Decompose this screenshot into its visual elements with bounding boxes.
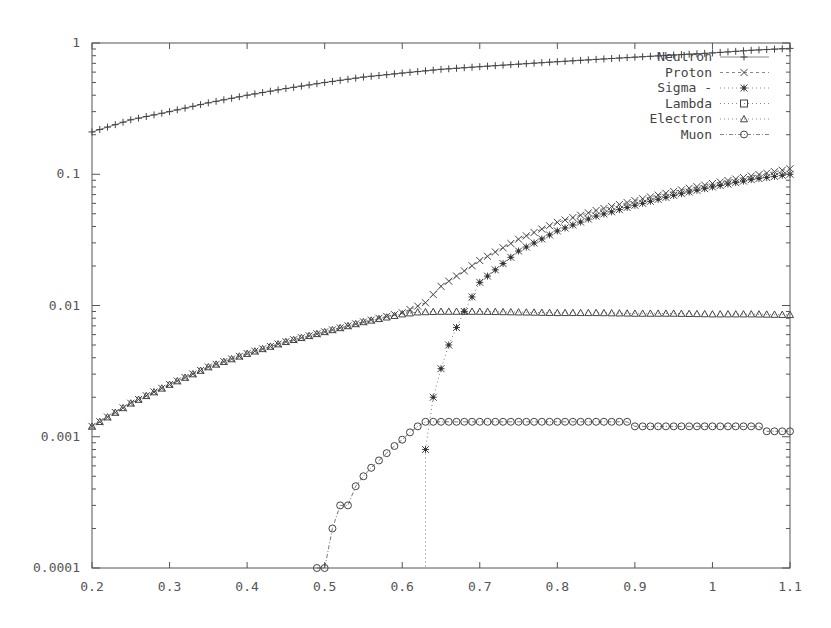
- sigma-marker-core: [548, 233, 551, 236]
- sigma-marker-core: [494, 268, 497, 271]
- x-tick-label: 1: [709, 579, 717, 594]
- legend-sigma-marker-core: [743, 87, 746, 90]
- sigma-marker-core: [657, 198, 660, 201]
- sigma-marker-core: [750, 178, 753, 181]
- sigma-marker-core: [703, 187, 706, 190]
- sigma-marker-core: [649, 200, 652, 203]
- sigma-marker-core: [587, 218, 590, 221]
- sigma-marker-core: [571, 223, 574, 226]
- sigma-marker-core: [626, 206, 629, 209]
- sigma-marker-core: [455, 326, 458, 329]
- sigma-marker-core: [478, 281, 481, 284]
- sigma-marker-core: [734, 181, 737, 184]
- sigma-marker-core: [440, 367, 443, 370]
- sigma-marker-core: [664, 196, 667, 199]
- y-tick-label: 1: [72, 35, 80, 50]
- legend-label: Lambda: [665, 96, 712, 111]
- legend-label: Electron: [649, 111, 712, 126]
- sigma-marker-core: [447, 344, 450, 347]
- sigma-marker-core: [680, 192, 683, 195]
- sigma-marker-core: [773, 175, 776, 178]
- legend-label: Muon: [681, 127, 712, 142]
- x-tick-label: 0.6: [390, 579, 413, 594]
- sigma-marker-core: [432, 396, 435, 399]
- sigma-marker-core: [726, 183, 729, 186]
- sigma-marker-core: [765, 176, 768, 179]
- sigma-marker-core: [579, 221, 582, 224]
- sigma-marker-core: [424, 448, 427, 451]
- sigma-marker-core: [540, 237, 543, 240]
- chart: 0.20.30.40.50.60.70.80.911.10.00010.0010…: [0, 0, 831, 628]
- legend-label: Proton: [665, 65, 712, 80]
- x-tick-label: 0.5: [313, 579, 336, 594]
- sigma-marker-core: [688, 191, 691, 194]
- sigma-marker-core: [742, 180, 745, 183]
- sigma-marker-core: [695, 189, 698, 192]
- sigma-marker-core: [533, 241, 536, 244]
- sigma-marker-core: [610, 210, 613, 213]
- x-tick-label: 0.7: [468, 579, 491, 594]
- sigma-marker-core: [556, 229, 559, 232]
- sigma-marker-core: [509, 256, 512, 259]
- sigma-marker-core: [502, 262, 505, 265]
- x-tick-label: 0.9: [623, 579, 646, 594]
- legend-label: Sigma -: [657, 80, 712, 95]
- sigma-marker-core: [486, 275, 489, 278]
- x-tick-label: 0.8: [546, 579, 569, 594]
- sigma-marker-core: [618, 208, 621, 211]
- x-tick-label: 0.3: [158, 579, 181, 594]
- sigma-marker-core: [757, 177, 760, 180]
- sigma-marker-core: [633, 204, 636, 207]
- y-tick-label: 0.0001: [33, 560, 80, 575]
- sigma-marker-core: [564, 226, 567, 229]
- sigma-marker-core: [525, 246, 528, 249]
- sigma-marker-core: [517, 250, 520, 253]
- sigma-marker-core: [711, 185, 714, 188]
- sigma-marker-core: [672, 194, 675, 197]
- sigma-marker-core: [719, 184, 722, 187]
- sigma-marker-core: [595, 215, 598, 218]
- x-tick-label: 0.2: [80, 579, 103, 594]
- y-tick-label: 0.001: [41, 429, 80, 444]
- sigma-marker-core: [641, 202, 644, 205]
- y-tick-label: 0.1: [57, 166, 80, 181]
- x-tick-label: 1.1: [778, 579, 801, 594]
- sigma-marker-core: [602, 212, 605, 215]
- sigma-marker-core: [471, 295, 474, 298]
- x-tick-label: 0.4: [235, 579, 259, 594]
- y-tick-label: 0.01: [49, 298, 80, 313]
- legend-label: Neutron: [657, 49, 712, 64]
